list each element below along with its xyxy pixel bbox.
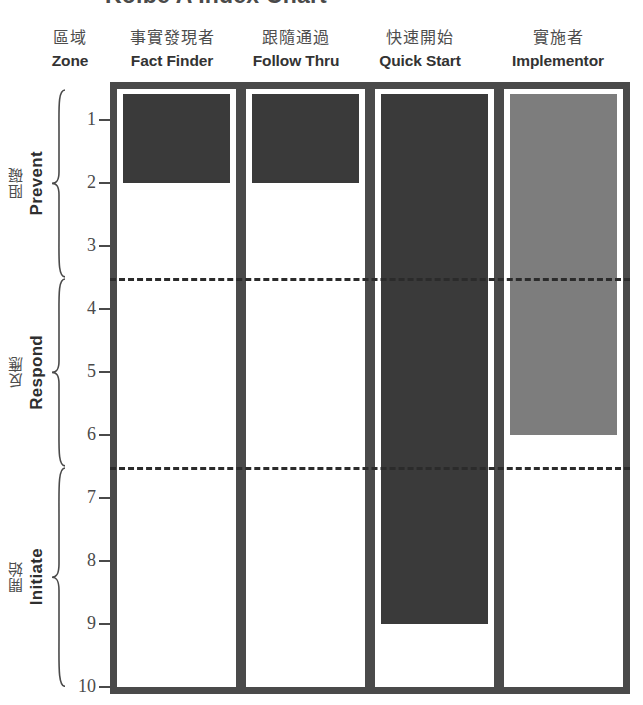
header-fact-finder-cn: 事實發現者 [110,27,234,49]
bar-column-quick-start[interactable] [375,89,494,687]
header-zone: 區域 Zone [22,27,118,73]
bar-follow-thru[interactable] [252,94,359,183]
plot-area [110,82,630,694]
zone-label-cn: 開始 [5,561,26,593]
header-implementor-en: Implementor [478,49,638,73]
zone-label: 開始Initiate [2,467,50,687]
header-fact-finder-en: Fact Finder [110,49,234,73]
zone-brace-icon [50,278,66,467]
zone-brace-icon [50,89,66,278]
y-axis: 12345678910 阻礙Prevent反應Respond開始Initiate [0,82,110,694]
plot-inner [117,89,623,687]
bar-fact-finder[interactable] [123,94,230,183]
page-title: Kolbe A Index Chart [105,0,525,8]
zone-label: 阻礙Prevent [2,89,50,278]
zone-label: 反應Respond [2,278,50,467]
column-divider [494,89,504,687]
header-quick-start: 快速開始 Quick Start [358,27,482,73]
column-divider [365,89,375,687]
header-implementor: 實施者 Implementor [478,27,638,73]
bar-column-implementor[interactable] [504,89,623,687]
bar-column-fact-finder[interactable] [117,89,236,687]
zone-label-en: Prevent [27,151,47,215]
zone-separator-line [110,467,630,470]
header-zone-label-en: Zone [22,49,118,73]
zone-respond: 反應Respond [0,278,110,467]
column-headers: 區域 Zone 事實發現者 Fact Finder 跟隨通過 Follow Th… [0,27,643,79]
bar-column-follow-thru[interactable] [246,89,365,687]
header-zone-label-cn: 區域 [22,27,118,49]
header-follow-thru-en: Follow Thru [234,49,358,73]
zone-label-cn: 阻礙 [5,167,26,199]
header-quick-start-en: Quick Start [358,49,482,73]
header-quick-start-cn: 快速開始 [358,27,482,49]
zone-initiate: 開始Initiate [0,467,110,687]
bar-quick-start[interactable] [381,94,488,624]
header-follow-thru: 跟隨通過 Follow Thru [234,27,358,73]
zone-brace-icon [50,467,66,687]
zone-label-en: Initiate [27,548,47,605]
zone-label-cn: 反應 [5,356,26,388]
zone-separator-line [110,278,630,281]
column-divider [236,89,246,687]
header-fact-finder: 事實發現者 Fact Finder [110,27,234,73]
header-follow-thru-cn: 跟隨通過 [234,27,358,49]
kolbe-a-index-chart: Kolbe A Index Chart 區域 Zone 事實發現者 Fact F… [0,0,643,705]
bar-implementor[interactable] [510,94,617,435]
header-implementor-cn: 實施者 [478,27,638,49]
zone-label-en: Respond [27,335,47,410]
zone-prevent: 阻礙Prevent [0,89,110,278]
